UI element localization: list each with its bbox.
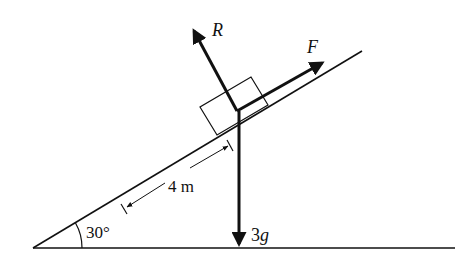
angle-label: 30° — [86, 223, 110, 242]
weight-symbol: g — [260, 225, 269, 245]
angle-arc — [76, 223, 83, 248]
applied-force-arrow — [237, 63, 322, 111]
weight-coefficient: 3 — [251, 225, 260, 245]
applied-force-label: F — [306, 37, 319, 57]
incline-line — [33, 51, 362, 248]
normal-force-arrow — [194, 31, 237, 111]
distance-label: 4 m — [168, 177, 194, 196]
weight-label: 3g — [251, 225, 269, 245]
normal-force-label: R — [211, 20, 223, 40]
distance-arrow-right — [190, 146, 228, 168]
distance-tick-left — [121, 204, 127, 214]
distance-tick-right — [227, 140, 233, 151]
distance-arrow-left — [127, 183, 165, 207]
incline-diagram: 30° 4 m R F 3g — [0, 0, 470, 261]
